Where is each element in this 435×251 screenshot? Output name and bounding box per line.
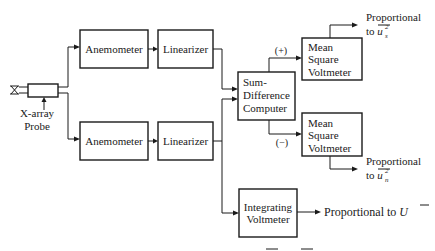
- linearizer-2-label: Linearizer: [163, 135, 209, 147]
- output-us2-var: u: [377, 25, 383, 37]
- arrow-msv-lower-out: [352, 167, 358, 172]
- block-diagram: X-array Probe Anemometer Linearizer Anem…: [0, 0, 435, 251]
- wire-linearizer-2-bus: [222, 99, 235, 213]
- msv-lower-line3: Voltmeter: [308, 142, 352, 154]
- output-us2-prefix: to: [366, 25, 377, 37]
- sign-plus: (+): [275, 45, 287, 57]
- wire-linearizer-1-to-sumdiff: [213, 49, 234, 89]
- output-us2-line1: Proportional: [366, 11, 421, 23]
- arrow-into-msv-lower: [296, 132, 302, 137]
- arrow-msv-upper-out: [352, 23, 358, 28]
- output-u-mean: Proportional to U: [324, 205, 429, 219]
- output-un2-var: u: [377, 169, 383, 181]
- arrow-into-msv-upper: [296, 56, 302, 61]
- x-array-probe: X-array Probe: [10, 84, 58, 132]
- sumdiff-label-line3: Computer: [243, 102, 287, 114]
- integrating-line1: Integrating: [244, 201, 293, 213]
- output-un2-sub: n: [385, 176, 389, 184]
- arrow-into-linearizer-2: [153, 139, 158, 144]
- output-un2-line1: Proportional: [366, 155, 421, 167]
- linearizer-1-label: Linearizer: [163, 43, 209, 55]
- linearizer-1: Linearizer: [158, 30, 213, 68]
- mean-square-voltmeter-lower: Mean Square Voltmeter: [302, 113, 362, 156]
- anemometer-2: Anemometer: [80, 122, 148, 160]
- wire-msv-lower-out: [330, 156, 354, 169]
- probe-body: [28, 84, 58, 97]
- anemometer-1-label: Anemometer: [85, 43, 143, 55]
- output-us2-sub: s: [385, 32, 388, 40]
- arrow-into-sumdiff-2: [232, 97, 238, 102]
- output-u-mean-text: Proportional to U: [324, 205, 409, 219]
- output-un2-prefix: to: [366, 169, 377, 181]
- msv-lower-line1: Mean: [308, 117, 334, 129]
- anemometer-1: Anemometer: [80, 30, 148, 68]
- msv-lower-line2: Square: [308, 129, 339, 141]
- wire-msv-upper-out: [330, 25, 354, 38]
- mean-square-voltmeter-upper: Mean Square Voltmeter: [302, 38, 362, 80]
- output-us2: Proportional to u 2 s: [366, 11, 421, 40]
- integrating-voltmeter: Integrating Voltmeter: [239, 189, 297, 237]
- arrow-into-integrating: [233, 211, 239, 216]
- arrow-into-sumdiff-1: [232, 87, 238, 92]
- probe-label-line2: Probe: [24, 120, 50, 132]
- msv-upper-line3: Voltmeter: [308, 66, 352, 78]
- output-un2-line2: to u: [366, 169, 383, 181]
- arrow-into-anemometer-2: [74, 137, 80, 142]
- arrow-into-linearizer-1: [153, 47, 158, 52]
- msv-upper-line2: Square: [308, 53, 339, 65]
- wire-sumdiff-to-msv-upper: [269, 58, 298, 72]
- integrating-line2: Voltmeter: [246, 213, 290, 225]
- output-un2: Proportional to u 2 n: [366, 155, 421, 184]
- sum-difference-computer: Sum- Difference Computer: [238, 72, 295, 120]
- wire-probe-to-anemometer-1: [58, 47, 76, 87]
- sumdiff-label-line1: Sum-: [243, 76, 267, 88]
- sumdiff-label-line2: Difference: [243, 89, 290, 101]
- output-us2-sup: 2: [385, 23, 389, 31]
- arrow-into-anemometer-1: [74, 45, 80, 50]
- anemometer-2-label: Anemometer: [85, 135, 143, 147]
- sign-minus: (−): [276, 137, 288, 149]
- msv-upper-line1: Mean: [308, 41, 334, 53]
- linearizer-2: Linearizer: [158, 122, 213, 160]
- output-u-mean-var: U: [399, 205, 409, 219]
- output-us2-line2: to u: [366, 25, 383, 37]
- output-un2-sup: 2: [385, 167, 389, 175]
- arrow-integrating-out: [315, 210, 321, 215]
- output-u-mean-prefix: Proportional to: [324, 205, 399, 219]
- probe-pointer-arrow: [42, 97, 47, 102]
- probe-label-line1: X-array: [20, 107, 55, 119]
- wire-sumdiff-to-msv-lower: [269, 120, 298, 134]
- wire-probe-to-anemometer-2: [58, 93, 76, 139]
